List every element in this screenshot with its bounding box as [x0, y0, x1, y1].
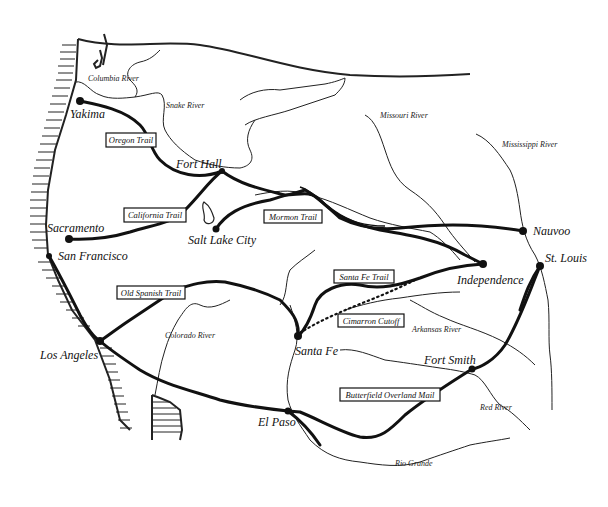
- city-label-santa-fe: Santa Fe: [295, 344, 339, 358]
- river-label-rio-grande: Rio Grande: [394, 459, 433, 468]
- city-dot-independence: [479, 260, 487, 268]
- city-label-st-louis: St. Louis: [545, 251, 587, 265]
- svg-text:California Trail: California Trail: [128, 210, 183, 220]
- trail-label-oregon: Oregon Trail: [106, 133, 156, 147]
- city-label-nauvoo: Nauvoo: [532, 224, 570, 238]
- trail-label-butterfield: Butterfield Overland Mail: [340, 388, 440, 401]
- city-dot-santa-fe: [294, 332, 302, 340]
- river-label-snake: Snake River: [166, 101, 205, 110]
- city-dot-sacramento: [65, 235, 73, 243]
- svg-text:Butterfield Overland Mail: Butterfield Overland Mail: [346, 390, 435, 400]
- city-label-fort-smith: Fort Smith: [423, 353, 476, 367]
- city-label-salt-lake-city: Salt Lake City: [188, 233, 257, 247]
- river-label-missouri: Missouri River: [379, 111, 429, 120]
- western-trails-map: Yakima Fort Hall Sacramento San Francisc…: [0, 0, 608, 507]
- city-label-san-francisco: San Francisco: [58, 249, 128, 263]
- river-labels: Columbia River Snake River Missouri Rive…: [88, 74, 558, 468]
- trail-label-santa-fe: Santa Fe Trail: [334, 270, 394, 283]
- svg-text:Cimarron Cutoff: Cimarron Cutoff: [343, 316, 401, 326]
- svg-text:Old Spanish Trail: Old Spanish Trail: [121, 288, 182, 298]
- city-label-independence: Independence: [456, 273, 524, 287]
- river-label-mississippi: Mississippi River: [501, 140, 558, 149]
- trail-label-old-spanish: Old Spanish Trail: [117, 286, 185, 299]
- river-label-columbia: Columbia River: [88, 74, 140, 83]
- river-label-red: Red River: [479, 403, 513, 412]
- river-label-arkansas: Arkansas River: [411, 325, 462, 334]
- city-label-los-angeles: Los Angeles: [39, 348, 98, 362]
- city-dot-los-angeles: [96, 337, 104, 345]
- city-label-sacramento: Sacramento: [47, 221, 104, 235]
- trail-label-mormon: Mormon Trail: [264, 210, 322, 223]
- city-dot-el-paso: [285, 408, 292, 415]
- city-labels: Yakima Fort Hall Sacramento San Francisc…: [39, 107, 587, 429]
- city-label-yakima: Yakima: [70, 107, 105, 121]
- city-label-fort-hall: Fort Hall: [175, 157, 222, 171]
- puget-sound: [94, 50, 102, 68]
- city-label-el-paso: El Paso: [257, 415, 296, 429]
- northern-border: [78, 34, 470, 77]
- city-dot-st-louis: [536, 262, 544, 270]
- svg-text:Oregon Trail: Oregon Trail: [109, 135, 154, 145]
- svg-text:Santa Fe Trail: Santa Fe Trail: [339, 272, 389, 282]
- trail-label-cimarron: Cimarron Cutoff: [338, 314, 404, 327]
- river-label-colorado: Colorado River: [165, 331, 216, 340]
- trail-label-california: California Trail: [124, 208, 186, 222]
- city-dot-san-francisco: [46, 253, 52, 259]
- svg-text:Mormon Trail: Mormon Trail: [268, 212, 318, 222]
- city-dot-yakima: [76, 97, 84, 105]
- great-salt-lake: [203, 202, 214, 224]
- city-dot-nauvoo: [519, 227, 527, 235]
- city-dot-salt-lake-city: [213, 226, 220, 233]
